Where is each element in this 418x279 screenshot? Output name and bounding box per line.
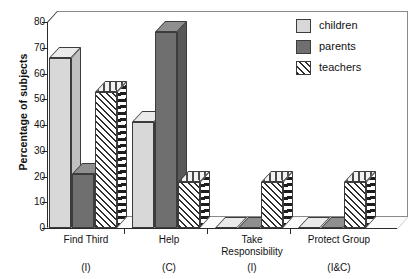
x-label-group-1: Find Third bbox=[42, 234, 130, 246]
bar-teachers-3[interactable] bbox=[261, 171, 283, 228]
bar-front-face bbox=[72, 174, 94, 228]
y-tick-label-20: 20 bbox=[17, 171, 45, 182]
bar-front-face bbox=[132, 122, 154, 228]
bar-front-face bbox=[178, 182, 200, 228]
bar-front-face bbox=[155, 32, 177, 228]
bar-front-face bbox=[344, 182, 366, 228]
legend-label-parents: parents bbox=[319, 41, 356, 52]
bar-parents-3[interactable] bbox=[238, 217, 260, 228]
y-tick-label-0: 0 bbox=[17, 222, 45, 233]
bar-front-face bbox=[95, 92, 117, 228]
y-tick-label-70: 70 bbox=[17, 42, 45, 53]
x-label-group-4: Protect Group bbox=[291, 234, 387, 246]
x-label-group-3-line2: Responsibility bbox=[208, 246, 296, 258]
x-sublabel-group-1: (I) bbox=[42, 262, 130, 273]
floor-front-edge bbox=[47, 228, 397, 229]
bar-children-4[interactable] bbox=[298, 217, 320, 228]
legend-item-teachers[interactable]: teachers bbox=[296, 60, 361, 75]
back-wall-top-edge bbox=[57, 11, 408, 12]
x-label-group-2-line1: Help bbox=[125, 234, 213, 246]
legend-swatch-teachers bbox=[296, 61, 311, 75]
legend-label-children: children bbox=[319, 20, 358, 31]
y-axis-line bbox=[47, 22, 48, 228]
bar-parents-1[interactable] bbox=[72, 163, 94, 228]
legend-item-children[interactable]: children bbox=[296, 18, 361, 33]
x-label-group-1-line1: Find Third bbox=[42, 234, 130, 246]
bar-teachers-1[interactable] bbox=[95, 81, 117, 228]
legend-swatch-children bbox=[296, 19, 311, 33]
bar-parents-2[interactable] bbox=[155, 21, 177, 228]
x-sublabel-group-4: (I&C) bbox=[291, 262, 387, 273]
x-label-group-3-line1: Take bbox=[208, 234, 296, 246]
x-sublabel-group-3: (I) bbox=[208, 262, 296, 273]
x-sublabel-group-2: (C) bbox=[125, 262, 213, 273]
y-tick-label-50: 50 bbox=[17, 93, 45, 104]
bar-children-1[interactable] bbox=[49, 47, 71, 228]
y-tick-label-60: 60 bbox=[17, 68, 45, 79]
bar-children-2[interactable] bbox=[132, 111, 154, 228]
bar-teachers-2[interactable] bbox=[178, 171, 200, 228]
bar-front-face bbox=[261, 182, 283, 228]
y-tick-label-80: 80 bbox=[17, 16, 45, 27]
bar-side-face bbox=[117, 81, 127, 228]
back-wall-right-edge bbox=[407, 11, 408, 217]
legend-item-parents[interactable]: parents bbox=[296, 39, 361, 54]
x-label-group-2: Help bbox=[125, 234, 213, 246]
bar-parents-4[interactable] bbox=[321, 217, 343, 228]
y-tick-label-40: 40 bbox=[17, 119, 45, 130]
legend: children parents teachers bbox=[296, 18, 361, 81]
bar-chart: Percentage of subjects 80 70 60 50 40 30… bbox=[0, 0, 418, 279]
x-label-group-3: Take Responsibility bbox=[208, 234, 296, 257]
bar-teachers-4[interactable] bbox=[344, 171, 366, 228]
x-label-group-4-line1: Protect Group bbox=[291, 234, 387, 246]
y-tick-label-30: 30 bbox=[17, 145, 45, 156]
bar-children-3[interactable] bbox=[215, 217, 237, 228]
legend-swatch-parents bbox=[296, 40, 311, 54]
bar-front-face bbox=[49, 58, 71, 228]
legend-label-teachers: teachers bbox=[319, 62, 361, 73]
y-tick-label-10: 10 bbox=[17, 196, 45, 207]
